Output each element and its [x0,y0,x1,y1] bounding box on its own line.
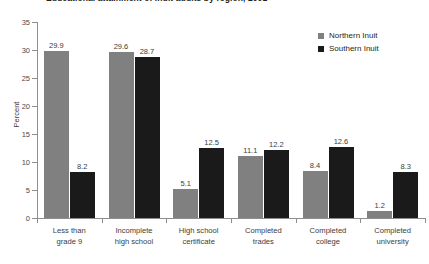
legend-swatch-icon [318,33,324,39]
bar-value-label: 1.2 [362,201,397,210]
bar-value-label: 29.9 [39,41,74,50]
bar [303,171,328,218]
category-label-line: Incomplete [102,226,167,237]
bar [367,211,392,218]
bar-value-label: 12.2 [259,140,294,149]
bar-value-label: 12.6 [324,137,359,146]
x-axis-tick [166,218,167,223]
legend-label: Southern Inuit [329,44,379,53]
category-label-line: college [296,237,361,248]
category-label-line: high school [102,237,167,248]
bar-chart: Educational attainment of Inuit adults b… [0,0,429,264]
category-label-line: Completed [296,226,361,237]
bar [199,148,224,218]
y-axis-tick-label: 5 [6,186,30,195]
bar [44,51,69,218]
bar [173,189,198,218]
x-axis-category-label: Incompletehigh school [102,226,167,247]
x-axis-tick [37,218,38,223]
bar-value-label: 5.1 [168,179,203,188]
bar-value-label: 8.3 [388,162,423,171]
category-label-line: Completed [231,226,296,237]
category-label-line: university [360,237,425,248]
bar [329,147,354,218]
bar [264,150,289,218]
category-label-line: High school [166,226,231,237]
x-axis-tick [425,218,426,223]
legend-label: Northern Inuit [329,31,377,40]
y-axis-tick-label: 35 [6,18,30,27]
x-axis-tick [102,218,103,223]
bar-value-label: 8.2 [65,162,100,171]
y-axis-tick-label: 10 [6,158,30,167]
bar [109,52,134,218]
category-label-line: Less than [37,226,102,237]
category-label-line: Completed [360,226,425,237]
legend-item[interactable]: Northern Inuit [318,29,379,42]
bar-value-label: 8.4 [298,161,333,170]
x-axis-category-label: Completeduniversity [360,226,425,247]
x-axis-tick [296,218,297,223]
x-axis-category-label: Completedtrades [231,226,296,247]
bar [70,172,95,218]
x-axis-tick [360,218,361,223]
legend-item[interactable]: Southern Inuit [318,42,379,55]
x-axis-category-label: Less thangrade 9 [37,226,102,247]
x-axis-tick [231,218,232,223]
y-axis-tick-label: 25 [6,74,30,83]
y-axis-tick-label: 0 [6,214,30,223]
category-label-line: certificate [166,237,231,248]
legend-swatch-icon [318,46,324,52]
chart-title: Educational attainment of Inuit adults b… [46,0,267,3]
y-axis-tick-label: 20 [6,102,30,111]
bar-value-label: 12.5 [194,138,229,147]
x-axis-category-label: Completedcollege [296,226,361,247]
category-label-line: trades [231,237,296,248]
x-axis-category-label: High schoolcertificate [166,226,231,247]
y-axis-tick-label: 30 [6,46,30,55]
y-axis-tick-label: 15 [6,130,30,139]
bar [393,172,418,218]
chart-legend: Northern InuitSouthern Inuit [318,29,379,55]
category-label-line: grade 9 [37,237,102,248]
bar [238,156,263,218]
bar [135,57,160,218]
bar-value-label: 28.7 [130,47,165,56]
